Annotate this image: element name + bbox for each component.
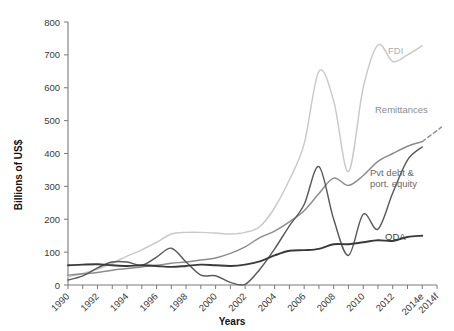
y-tick-label: 400 bbox=[44, 148, 60, 159]
x-tick-label: 2012 bbox=[373, 291, 396, 314]
y-tick-label: 500 bbox=[44, 115, 60, 126]
series-label-oda: ODA bbox=[385, 231, 406, 242]
x-tick-label: 1994 bbox=[108, 291, 131, 314]
y-tick-label: 300 bbox=[44, 181, 60, 192]
series-label-remittances: Remittances bbox=[375, 104, 428, 115]
series-line-remittances bbox=[68, 142, 422, 275]
series-label-pvt-debt-port-equity: Pvt debt & bbox=[370, 167, 414, 178]
x-tick-label: 1996 bbox=[137, 291, 160, 314]
x-axis-title: Years bbox=[219, 316, 246, 327]
y-tick-label: 100 bbox=[44, 247, 60, 258]
line-chart: 0100200300400500600700800 19901992199419… bbox=[0, 0, 454, 331]
series-label-pvt-debt-port-equity: port. equity bbox=[370, 178, 417, 189]
x-tick-label: 2000 bbox=[196, 291, 219, 314]
x-tick-label: 1998 bbox=[167, 291, 190, 314]
y-axis-title: Billions of US$ bbox=[13, 139, 24, 210]
x-tick-label: 1990 bbox=[49, 291, 72, 314]
x-tick-label: 2006 bbox=[285, 291, 308, 314]
y-tick-label: 200 bbox=[44, 214, 60, 225]
y-axis: 0100200300400500600700800 bbox=[44, 17, 68, 291]
x-tick-label: 2008 bbox=[314, 291, 337, 314]
series-label-fdi: FDI bbox=[388, 45, 403, 56]
y-tick-label: 600 bbox=[44, 82, 60, 93]
x-tick-label: 2002 bbox=[226, 291, 249, 314]
x-axis: 1990199219941996199820002002200420062008… bbox=[49, 285, 441, 317]
series-lines bbox=[68, 44, 441, 285]
series-labels: FDIRemittancesPvt debt &port. equityODA bbox=[370, 45, 428, 242]
y-tick-label: 800 bbox=[44, 17, 60, 28]
y-tick-label: 700 bbox=[44, 49, 60, 60]
chart-container: 0100200300400500600700800 19901992199419… bbox=[0, 0, 454, 331]
series-forecast-remittances bbox=[422, 127, 441, 141]
x-tick-label: 2004 bbox=[255, 291, 278, 314]
y-tick-label: 0 bbox=[55, 280, 60, 291]
x-tick-label: 1992 bbox=[78, 291, 101, 314]
x-tick-label: 2010 bbox=[344, 291, 367, 314]
